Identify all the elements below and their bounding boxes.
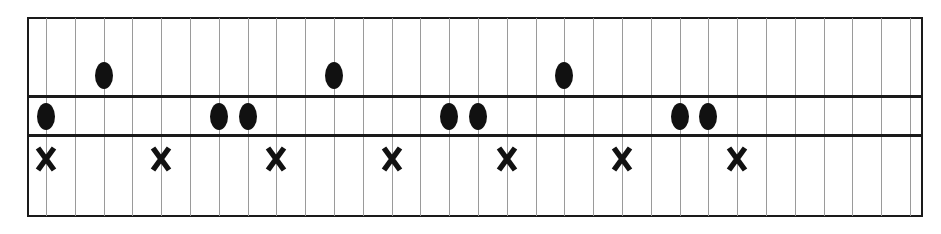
grid-column-line — [593, 18, 594, 216]
dot-marker — [210, 103, 228, 130]
dot-marker — [325, 62, 343, 89]
x-marker-icon — [726, 146, 748, 172]
dot-marker — [699, 103, 717, 130]
row-divider-1 — [27, 95, 923, 98]
dot-marker — [239, 103, 257, 130]
x-marker-icon — [611, 146, 633, 172]
x-marker-icon — [381, 146, 403, 172]
dot-marker — [95, 62, 113, 89]
grid-column-line — [795, 18, 796, 216]
dot-marker — [37, 103, 55, 130]
x-marker-icon — [35, 146, 57, 172]
row-divider-2 — [27, 134, 923, 137]
x-marker-icon — [150, 146, 172, 172]
dot-marker — [671, 103, 689, 130]
grid-column-line — [622, 18, 623, 216]
grid-column-line — [104, 18, 105, 216]
grid-column-line — [737, 18, 738, 216]
grid-column-line — [75, 18, 76, 216]
grid-column-line — [564, 18, 565, 216]
grid-column-line — [852, 18, 853, 216]
grid-column-line — [276, 18, 277, 216]
grid-column-line — [766, 18, 767, 216]
dot-marker — [440, 103, 458, 130]
grid-column-line — [420, 18, 421, 216]
grid-column-line — [651, 18, 652, 216]
dot-marker — [555, 62, 573, 89]
grid-column-line — [507, 18, 508, 216]
grid-column-line — [536, 18, 537, 216]
grid-column-line — [161, 18, 162, 216]
grid-column-line — [881, 18, 882, 216]
dot-marker — [469, 103, 487, 130]
grid-column-line — [190, 18, 191, 216]
grid-column-line — [363, 18, 364, 216]
grid-column-line — [392, 18, 393, 216]
grid-column-line — [910, 18, 911, 216]
rhythm-grid-diagram — [0, 0, 941, 234]
x-marker-icon — [496, 146, 518, 172]
x-marker-icon — [265, 146, 287, 172]
grid-column-line — [334, 18, 335, 216]
grid-column-line — [305, 18, 306, 216]
grid-column-line — [824, 18, 825, 216]
grid-column-line — [132, 18, 133, 216]
